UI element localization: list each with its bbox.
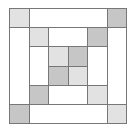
inner-corner-tl-piece <box>29 27 49 47</box>
center-tl-piece <box>48 46 69 67</box>
corner-tr-piece <box>107 8 127 28</box>
quilt-block <box>9 8 126 123</box>
top-bar-piece <box>29 8 108 28</box>
inner-top-bar-piece <box>48 27 88 47</box>
center-tr-piece <box>68 46 88 67</box>
inner-bottom-bar-piece <box>48 85 88 105</box>
left-bar-piece <box>9 27 30 105</box>
inner-left-bar-piece <box>29 46 49 86</box>
right-bar-piece <box>107 27 127 105</box>
inner-corner-bl-piece <box>29 85 49 105</box>
corner-bl-piece <box>9 104 30 124</box>
center-bl-piece <box>48 66 69 86</box>
inner-corner-br-piece <box>87 85 108 105</box>
inner-corner-tr-piece <box>87 27 108 47</box>
center-br-piece <box>68 66 88 86</box>
inner-right-bar-piece <box>87 46 108 86</box>
bottom-bar-piece <box>29 104 108 124</box>
corner-br-piece <box>107 104 127 124</box>
corner-tl-piece <box>9 8 30 28</box>
